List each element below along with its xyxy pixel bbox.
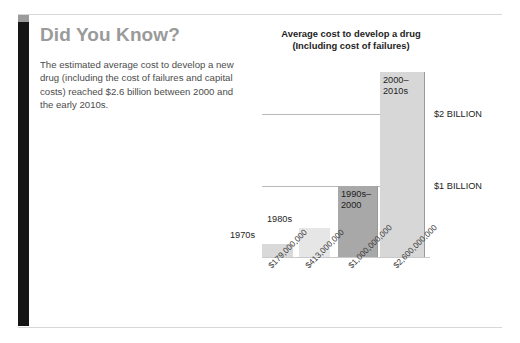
page-rule-top (18, 14, 502, 15)
bar-label-2000s-2010s: 2000– 2010s (383, 75, 409, 97)
infographic-page: Did You Know? The estimated average cost… (0, 0, 520, 343)
axis-label-2-billion: $2 BILLION (434, 109, 482, 119)
chart-plot-area: $2 BILLION $1 BILLION 1970s 1980s 1990s–… (262, 61, 506, 257)
chart-title-line-1: Average cost to develop a drug (262, 28, 440, 40)
chart-title: Average cost to develop a drug (Includin… (262, 28, 440, 52)
bar-label-1970s: 1970s (228, 230, 257, 241)
bar-label-1990s-2000: 1990s– 2000 (341, 189, 371, 211)
bar-label-1980s: 1980s (265, 214, 294, 225)
axis-label-1-billion: $1 BILLION (434, 181, 482, 191)
chart-container: Average cost to develop a drug (Includin… (262, 28, 506, 328)
sidebar-accent-bar (18, 22, 29, 326)
callout-column: Did You Know? The estimated average cost… (40, 24, 240, 112)
callout-body-text: The estimated average cost to develop a … (40, 58, 236, 112)
page-title: Did You Know? (40, 24, 240, 46)
chart-title-line-2: (Including cost of failures) (262, 40, 440, 52)
